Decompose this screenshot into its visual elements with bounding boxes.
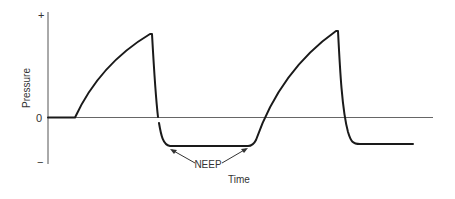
y-tick-plus: + (38, 9, 44, 21)
x-axis-label: Time (228, 174, 250, 185)
y-axis-label: Pressure (21, 68, 32, 108)
pressure-time-diagram: + 0 − Pressure NEEP Time (0, 0, 455, 199)
y-tick-zero: 0 (36, 112, 42, 124)
pressure-curve (48, 31, 413, 146)
neep-label: NEEP (194, 159, 222, 170)
arrowhead-left-icon (170, 149, 177, 154)
y-tick-minus: − (37, 156, 43, 168)
neep-annotation: NEEP (170, 148, 248, 170)
arrowhead-right-icon (241, 148, 248, 153)
neep-arrow-right (222, 149, 246, 163)
